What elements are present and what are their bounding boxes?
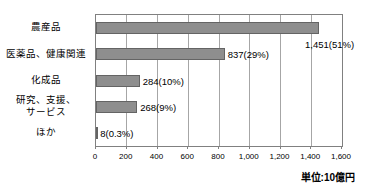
gridline xyxy=(311,15,312,146)
category-label: 研究、支援、 サービス xyxy=(0,93,92,119)
bar xyxy=(96,75,140,87)
category-label: 化成品 xyxy=(0,66,92,92)
x-tick-mark xyxy=(310,146,311,149)
category-axis: 農産品医薬品、健康関連化成品研究、支援、 サービスほか xyxy=(0,14,92,145)
gridline xyxy=(219,15,220,146)
x-tick-label: 400 xyxy=(150,152,163,162)
x-tick-label: 600 xyxy=(181,152,194,162)
gridline xyxy=(188,15,189,146)
gridline xyxy=(249,15,250,146)
x-tick-mark xyxy=(157,146,158,149)
value-label: 268(9%) xyxy=(140,102,176,113)
x-tick-mark xyxy=(95,146,96,149)
value-label: 284(10%) xyxy=(143,76,184,87)
bar xyxy=(96,48,225,60)
bar xyxy=(96,127,98,139)
x-tick-label: 1,200 xyxy=(269,152,289,162)
bar-chart: 農産品医薬品、健康関連化成品研究、支援、 サービスほか 1,451(51%)83… xyxy=(0,0,367,195)
gridline xyxy=(280,15,281,146)
value-label: 8(0.3%) xyxy=(100,128,133,139)
value-label: 837(29%) xyxy=(228,49,269,60)
bar xyxy=(96,101,137,113)
x-tick-label: 1,600 xyxy=(331,152,351,162)
value-label: 1,451(51%) xyxy=(305,39,354,50)
x-tick-mark xyxy=(280,146,281,149)
x-tick-mark xyxy=(341,146,342,149)
x-tick-label: 800 xyxy=(211,152,224,162)
x-tick-label: 0 xyxy=(93,152,97,162)
x-tick-label: 1,400 xyxy=(300,152,320,162)
x-tick-label: 1,000 xyxy=(239,152,259,162)
x-tick-mark xyxy=(249,146,250,149)
unit-note: 単位:10億円 xyxy=(301,169,355,184)
x-tick-mark xyxy=(218,146,219,149)
category-label: 農産品 xyxy=(0,14,92,40)
x-tick-mark xyxy=(126,146,127,149)
x-tick-mark xyxy=(187,146,188,149)
x-tick-label: 200 xyxy=(119,152,132,162)
bar xyxy=(96,22,319,34)
category-label: ほか xyxy=(0,119,92,145)
plot-area: 1,451(51%)837(29%)284(10%)268(9%)8(0.3%) xyxy=(95,14,343,147)
category-label: 医薬品、健康関連 xyxy=(0,40,92,66)
